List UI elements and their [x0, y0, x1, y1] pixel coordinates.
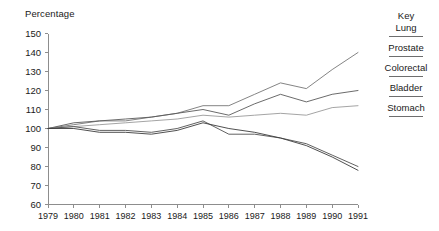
x-tick-label: 1985: [193, 211, 213, 221]
legend-title: Key: [375, 10, 437, 21]
series-line-prostate: [48, 53, 358, 129]
x-tick-label: 1988: [270, 211, 290, 221]
legend-line-swatch: [389, 116, 423, 117]
chart-legend: Key LungProstateColorectalBladderStomach: [375, 10, 437, 122]
x-tick-label: 1980: [64, 211, 84, 221]
x-tick-label: 1981: [90, 211, 110, 221]
legend-line-swatch: [389, 76, 423, 77]
legend-item-label: Stomach: [375, 102, 437, 114]
x-tick-label: 1989: [296, 211, 316, 221]
x-tick-label: 1991: [348, 211, 368, 221]
x-tick-label: 1982: [115, 211, 135, 221]
y-tick-label: 140: [25, 47, 41, 58]
legend-item-stomach[interactable]: Stomach: [375, 102, 437, 117]
y-tick-label: 80: [30, 161, 41, 172]
line-chart: Percentage 60708090100110120130140150 19…: [0, 0, 439, 231]
legend-line-swatch: [389, 56, 423, 57]
x-tick-label: 1984: [167, 211, 187, 221]
y-tick-label: 110: [26, 104, 41, 115]
legend-item-label: Lung: [375, 22, 437, 34]
y-axis-ticks: 60708090100110120130140150: [25, 28, 48, 210]
legend-item-label: Colorectal: [375, 62, 437, 74]
y-tick-label: 60: [30, 199, 41, 210]
y-tick-label: 100: [25, 123, 41, 134]
legend-item-prostate[interactable]: Prostate: [375, 42, 437, 57]
legend-line-swatch: [389, 36, 423, 37]
y-tick-label: 150: [25, 28, 41, 39]
y-tick-label: 90: [30, 142, 41, 153]
series-line-bladder: [48, 121, 358, 167]
legend-entries: LungProstateColorectalBladderStomach: [375, 22, 437, 117]
x-tick-label: 1986: [219, 211, 239, 221]
x-tick-label: 1983: [141, 211, 161, 221]
legend-item-label: Bladder: [375, 82, 437, 94]
y-tick-label: 70: [30, 180, 41, 191]
plot-area: 60708090100110120130140150 1979198019811…: [0, 0, 439, 231]
legend-item-bladder[interactable]: Bladder: [375, 82, 437, 97]
data-series-group: [48, 53, 358, 171]
y-tick-label: 120: [25, 85, 41, 96]
x-tick-label: 1979: [38, 211, 58, 221]
x-axis-ticks: 1979198019811982198319841985198619871988…: [38, 205, 368, 221]
legend-line-swatch: [389, 96, 423, 97]
legend-item-lung[interactable]: Lung: [375, 22, 437, 37]
x-tick-label: 1990: [322, 211, 342, 221]
legend-item-label: Prostate: [375, 42, 437, 54]
y-tick-label: 130: [25, 66, 41, 77]
x-tick-label: 1987: [245, 211, 265, 221]
legend-item-colorectal[interactable]: Colorectal: [375, 62, 437, 77]
